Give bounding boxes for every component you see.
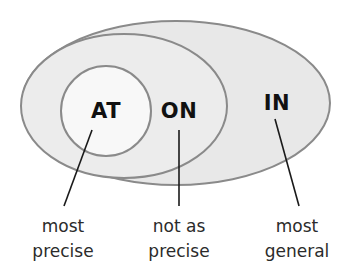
- caption-on-line1: not as: [153, 216, 206, 236]
- precision-venn-diagram: AT ON IN most precise not as precise mos…: [0, 0, 353, 278]
- caption-at-line2: precise: [32, 241, 93, 261]
- venn-diagram-svg: AT ON IN most precise not as precise mos…: [0, 0, 353, 278]
- caption-in-line2: general: [265, 241, 330, 261]
- caption-on-line2: precise: [148, 241, 209, 261]
- region-label-in: IN: [264, 91, 290, 115]
- region-label-on: ON: [161, 99, 197, 123]
- caption-at-line1: most: [42, 216, 85, 236]
- caption-in-line1: most: [276, 216, 319, 236]
- region-label-at: AT: [91, 99, 121, 123]
